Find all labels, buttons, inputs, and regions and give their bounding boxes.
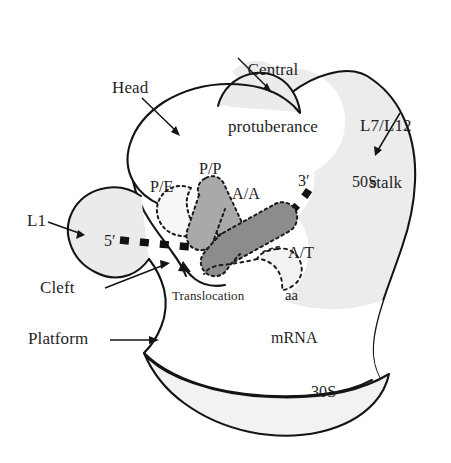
diagram-canvas (0, 0, 451, 463)
label-site-aa: A/A (232, 185, 260, 203)
label-50s: 50S (352, 173, 377, 191)
label-site-pe: P/E (150, 178, 173, 196)
label-cleft: Cleft (40, 278, 75, 297)
label-3-prime: 3′ (298, 172, 310, 190)
label-central-protuberance: Central protuberance (228, 22, 318, 174)
label-l7-l12-line1: L7/L12 (360, 116, 412, 135)
label-l7-l12-stalk: L7/L12 stalk (360, 78, 412, 230)
label-30s: 30S (311, 383, 336, 401)
label-l1: L1 (27, 211, 46, 230)
label-central-protuberance-line1: Central (228, 60, 318, 79)
ribosome-diagram-figure: Central protuberance Head L7/L12 stalk 5… (0, 0, 451, 463)
label-site-pp: P/P (199, 160, 222, 178)
label-head: Head (112, 78, 148, 97)
label-site-at: A/T (288, 244, 314, 262)
label-mrna: mRNA (271, 329, 318, 347)
label-central-protuberance-line2: protuberance (228, 117, 318, 136)
label-translocation: Translocation (172, 289, 244, 304)
label-platform: Platform (28, 329, 88, 348)
label-aa: aa (285, 287, 298, 303)
label-5-prime: 5′ (104, 232, 116, 250)
